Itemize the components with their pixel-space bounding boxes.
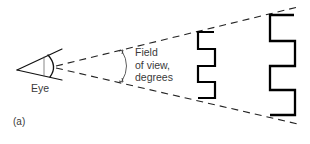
fov-label-line3: degrees — [135, 71, 173, 84]
lower-sight-line — [56, 68, 298, 124]
field-of-view-diagram: Field of view, degrees Eye (a) — [0, 0, 310, 144]
panel-label: (a) — [13, 116, 25, 129]
far-grating-target — [270, 15, 295, 115]
fov-label-line1: Field — [135, 46, 173, 59]
sight-lines — [56, 7, 298, 124]
eye-icon — [17, 49, 62, 80]
upper-sight-line — [56, 7, 298, 66]
field-of-view-label: Field of view, degrees — [135, 46, 173, 84]
near-grating-target — [198, 32, 215, 98]
field-of-view-arc — [119, 50, 127, 82]
fov-label-line2: of view, — [135, 59, 173, 72]
eye-label: Eye — [31, 82, 49, 95]
